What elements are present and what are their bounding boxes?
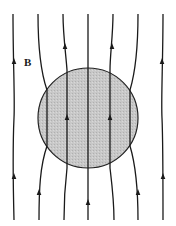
arrowhead-up-icon [63, 43, 68, 49]
arrowhead-up-icon [160, 58, 165, 64]
arrowhead-up-icon [12, 173, 17, 179]
arrowhead-up-icon [110, 43, 115, 49]
field-label-b: B [24, 56, 32, 68]
arrowhead-up-icon [136, 189, 141, 195]
field-line [162, 14, 163, 220]
field-line [13, 14, 14, 220]
arrowhead-up-icon [161, 173, 166, 179]
arrowhead-up-icon [12, 58, 17, 64]
field-lines [13, 14, 163, 220]
magnetic-field-diagram: B [0, 0, 176, 226]
arrowhead-up-icon [86, 199, 91, 205]
arrowhead-up-icon [37, 189, 42, 195]
